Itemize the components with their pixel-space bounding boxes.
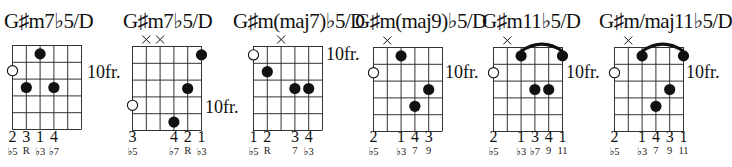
interval-label: 9: [421, 145, 437, 156]
chord-title: G♯m7♭5/D: [123, 9, 212, 34]
fretboard-svg: [132, 46, 202, 131]
finger-dot: [35, 48, 46, 59]
finger-number: 1: [557, 128, 569, 146]
fret-position-label: 10fr.: [566, 62, 600, 83]
finger-dot: [516, 50, 527, 61]
fret-position-label: 10fr.: [445, 62, 479, 83]
finger-dot: [423, 84, 434, 95]
fret-position-label: 10fr.: [326, 44, 360, 65]
root-open-circle-marker: [609, 68, 619, 78]
interval-label: 11: [555, 145, 571, 156]
finger-number: 1: [678, 128, 690, 146]
interval-label: 11: [676, 145, 692, 156]
fretboard-svg: [614, 47, 684, 132]
finger-number: 3: [423, 128, 435, 146]
finger-dot: [650, 101, 661, 112]
root-open-circle-marker: [368, 68, 378, 78]
finger-number: 1: [196, 128, 208, 146]
fretboard-grid: [614, 47, 684, 132]
interval-label: ♭3: [194, 145, 210, 157]
root-open-circle-marker: [488, 68, 498, 78]
finger-number: 2: [488, 128, 500, 146]
finger-dot: [409, 101, 420, 112]
muted-string-x-icon: [277, 36, 285, 44]
fretboard-grid: [253, 46, 323, 131]
finger-number: 1: [395, 128, 407, 146]
finger-dot: [396, 50, 407, 61]
finger-number: 3: [289, 128, 301, 146]
finger-dot: [21, 82, 32, 93]
interval-label: ♭5: [125, 145, 141, 157]
finger-number: 1: [34, 128, 46, 146]
finger-dot: [664, 84, 675, 95]
muted-string-x-icon: [142, 36, 150, 44]
interval-label: ♭5: [486, 145, 502, 157]
fret-position-label: 10fr.: [205, 97, 239, 118]
finger-dot: [678, 50, 689, 61]
interval-label: ♭3: [301, 145, 317, 157]
chord-title: G♯m/maj11♭5/D: [599, 9, 732, 34]
finger-number: 4: [650, 128, 662, 146]
root-open-circle-marker: [248, 50, 258, 60]
finger-number: 2: [182, 128, 194, 146]
finger-dot: [182, 83, 193, 94]
root-open-circle-marker: [127, 100, 137, 110]
finger-number: 3: [127, 128, 139, 146]
fretboard-svg: [12, 45, 82, 130]
finger-number: 1: [248, 128, 260, 146]
fretboard-svg: [373, 47, 443, 132]
finger-number: 4: [168, 128, 180, 146]
chord-title: G♯m(maj7)♭5/D: [233, 9, 365, 34]
finger-number: 2: [7, 128, 19, 146]
finger-dot: [303, 83, 314, 94]
finger-number: 4: [409, 128, 421, 146]
interval-label: R: [259, 145, 275, 156]
muted-string-x-icon: [156, 36, 164, 44]
finger-dot: [557, 50, 568, 61]
finger-number: 3: [529, 128, 541, 146]
finger-number: 4: [48, 128, 60, 146]
finger-dot: [637, 50, 648, 61]
fretboard-grid: [373, 47, 443, 132]
finger-number: 2: [368, 128, 380, 146]
fretboard-grid: [132, 46, 202, 131]
finger-number: 3: [20, 128, 32, 146]
fretboard-grid: [493, 47, 563, 132]
interval-label: ♭5: [366, 145, 382, 157]
finger-number: 4: [303, 128, 315, 146]
finger-dot: [196, 49, 207, 60]
finger-number: 3: [664, 128, 676, 146]
interval-label: ♭5: [607, 145, 623, 157]
muted-string-x-icon: [383, 37, 391, 45]
fretboard-svg: [493, 47, 563, 132]
finger-dot: [168, 117, 179, 128]
root-open-circle-marker: [7, 66, 17, 76]
finger-dot: [289, 83, 300, 94]
finger-dot: [529, 84, 540, 95]
fret-position-label: 10fr.: [686, 62, 720, 83]
finger-dot: [48, 82, 59, 93]
fretboard-svg: [253, 46, 323, 131]
muted-string-x-icon: [503, 37, 511, 45]
finger-number: 4: [543, 128, 555, 146]
interval-label: ♭7: [46, 145, 62, 157]
fretboard-grid: [12, 45, 82, 130]
chord-title: G♯m(maj9)♭5/D: [355, 9, 487, 34]
finger-number: 2: [609, 128, 621, 146]
finger-number: 2: [261, 128, 273, 146]
finger-dot: [543, 84, 554, 95]
muted-string-x-icon: [624, 37, 632, 45]
finger-number: 1: [515, 128, 527, 146]
chord-title: G♯m11♭5/D: [482, 9, 580, 34]
finger-dot: [262, 66, 273, 77]
finger-number: 1: [636, 128, 648, 146]
